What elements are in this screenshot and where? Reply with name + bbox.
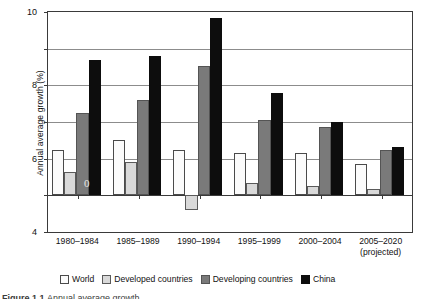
plot-area: 1086420-2 [47,11,413,233]
figure-caption-text: Annual average growth [47,293,140,299]
bar-china [89,60,101,196]
bar-world [295,153,307,195]
y-tick-label-4: 4 [32,227,37,237]
legend-item-world: World [60,274,94,284]
bar-developed [125,162,137,195]
chart-figure: Annual average growth (%) 1086420-2 1980… [0,0,425,299]
y-tick--2: -2 [44,232,48,233]
y-tick-label-10: 10 [27,7,37,17]
x-axis-label-sublabel: (projected) [359,247,402,257]
figure-caption: Figure 1.1 Annual average growth [2,293,140,299]
bar-world [173,150,185,196]
bar-developed [185,195,197,210]
x-tick [382,195,383,199]
bar-china [210,18,222,195]
bar-developing [198,66,210,195]
x-tick [78,195,79,199]
legend-item-developing: Developing countries [201,274,293,284]
x-tick [200,195,201,199]
x-axis-label: 1990–1994 [177,236,220,246]
x-axis-label-period: 1985–1989 [116,236,159,246]
x-axis-label-period: 1980–1984 [56,236,99,246]
y-tick-label-6: 6 [32,154,37,164]
bar-world [355,164,367,195]
legend-item-developed: Developed countries [102,274,192,284]
legend-label: World [72,274,94,284]
y-axis-title: Annual average growth (%) [35,23,45,223]
legend-label: Developed countries [114,274,192,284]
bar-developing [319,127,331,196]
figure-caption-number: Figure 1.1 [2,293,45,299]
y-tick-label-8: 8 [32,80,37,90]
bar-developing [258,120,270,195]
legend-swatch-developed [102,275,111,284]
x-axis-label: 2000–2004 [298,236,341,246]
legend-swatch-china [301,275,310,284]
legend-item-china: China [301,274,335,284]
legend-label: Developing countries [213,274,293,284]
bar-developed [367,189,379,195]
x-tick [260,195,261,199]
x-tick [321,195,322,199]
legend-label: China [313,274,335,284]
x-axis-label: 1985–1989 [116,236,159,246]
bar-china [392,147,404,196]
bar-developing [380,150,392,196]
x-axis-category-labels: 1980–19841985–19891990–19941995–19992000… [47,236,413,266]
bar-china [331,122,343,195]
bar-world [52,150,64,196]
legend-swatch-developing [201,275,210,284]
legend-swatch-world [60,275,69,284]
bar-developing [137,100,149,195]
bar-developed [246,183,258,196]
bar-developed [307,186,319,195]
bar-china [271,93,283,196]
bar-china [149,56,161,195]
x-axis-label: 2005–2020(projected) [359,236,402,257]
x-axis-label-period: 1995–1999 [238,236,281,246]
bar-world [234,153,246,195]
bar-world [113,140,125,195]
x-tick [139,195,140,199]
x-axis-label: 1995–1999 [238,236,281,246]
x-axis-label-period: 1990–1994 [177,236,220,246]
scan-artifact-mark: 0 [84,178,90,189]
x-axis-label-period: 2000–2004 [298,236,341,246]
chart-legend: WorldDeveloped countriesDeveloping count… [60,272,415,286]
x-axis-label-period: 2005–2020 [359,236,402,246]
bar-developed [64,172,76,196]
x-axis-label: 1980–1984 [56,236,99,246]
